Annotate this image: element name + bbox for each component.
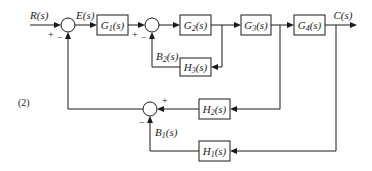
sign-sum3-minus: − (139, 117, 145, 128)
arrowhead-icon (350, 22, 357, 28)
block-h1-label: H1(s) (202, 145, 227, 159)
arrowhead-icon (234, 22, 241, 28)
arrowhead-icon (230, 106, 237, 112)
h1-pickoff-line (235, 25, 336, 151)
h2-pickoff-line (235, 25, 280, 109)
label-output: C(s) (334, 9, 353, 22)
summing-junction-2 (145, 18, 159, 32)
arrowhead-icon (173, 22, 180, 28)
problem-number: (2) (18, 97, 30, 109)
block-h3-label: H3(s) (183, 61, 208, 75)
block-g4-label: G4(s) (298, 19, 322, 33)
block-diagram: R(s) E(s) C(s) B2(s) B1(s) G1(s) G2(s) G… (0, 0, 372, 171)
summing-junction-3 (143, 102, 157, 116)
label-b2: B2(s) (156, 50, 179, 64)
summing-junction-1 (61, 18, 75, 32)
block-g2-label: G2(s) (184, 19, 208, 33)
sign-sum3-plus: + (162, 95, 168, 106)
arrowhead-icon (149, 32, 155, 39)
arrowhead-icon (287, 22, 294, 28)
sign-sum1-minus: − (57, 32, 63, 43)
block-h2-label: H2(s) (202, 103, 227, 117)
arrowhead-icon (157, 106, 164, 112)
arrowhead-icon (90, 22, 97, 28)
sign-sum1-plus: + (48, 29, 54, 40)
main-feedback-line (68, 37, 143, 109)
arrowhead-icon (65, 32, 71, 39)
label-input: R(s) (29, 9, 49, 22)
block-g1-label: G1(s) (101, 19, 125, 33)
arrowhead-icon (147, 116, 153, 123)
sign-sum2-plus: + (132, 29, 138, 40)
label-b1: B1(s) (155, 126, 178, 140)
arrowhead-icon (230, 148, 237, 154)
sign-sum2-minus: − (141, 32, 147, 43)
arrowhead-icon (54, 22, 61, 28)
h3-pickoff-line (216, 25, 222, 67)
arrowhead-icon (138, 22, 145, 28)
block-g3-label: G3(s) (244, 19, 268, 33)
label-error: E(s) (75, 9, 95, 22)
arrowhead-icon (211, 64, 218, 70)
